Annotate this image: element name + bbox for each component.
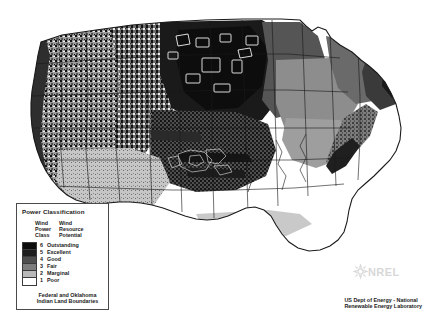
credit-text: US Dept of Energy - National Renewable E… xyxy=(344,297,422,310)
legend-swatch-class-6 xyxy=(23,243,36,250)
legend-class-row-1: 1Poor xyxy=(40,277,103,284)
legend-class-number: 3 xyxy=(40,263,47,269)
legend-class-label: Marginal xyxy=(47,270,69,276)
legend-swatch-class-1 xyxy=(23,278,36,285)
legend-header-wind-power-class: Wind Power Class xyxy=(35,220,59,239)
legend-class-rows: 6Outstanding5Excellent4Good3Fair2Margina… xyxy=(40,242,103,284)
raster-streak-panhandle-c xyxy=(150,130,202,142)
legend-swatch-class-4 xyxy=(23,257,36,264)
legend-header-wind-resource-potential: Wind Resource Potential xyxy=(59,220,84,239)
legend-class-label: Fair xyxy=(47,263,57,269)
wind-resource-figure: Power Classification Wind Power Class Wi… xyxy=(0,0,434,323)
legend-class-label: Outstanding xyxy=(47,242,79,248)
legend-class-number: 4 xyxy=(40,256,47,262)
legend-title: Power Classification xyxy=(22,208,103,215)
legend-class-label: Good xyxy=(47,256,61,262)
legend-class-number: 6 xyxy=(40,242,47,248)
legend-swatch-class-5 xyxy=(23,250,36,257)
nrel-wordmark: NREL xyxy=(368,266,400,278)
legend-class-number: 1 xyxy=(40,277,47,283)
legend-class-row-3: 3Fair xyxy=(40,263,103,270)
legend-swatch-class-2 xyxy=(23,271,36,278)
legend-class-row-2: 2Marginal xyxy=(40,270,103,277)
legend-class-row-6: 6Outstanding xyxy=(40,242,103,249)
power-classification-legend: Power Classification Wind Power Class Wi… xyxy=(16,203,109,310)
legend-class-label: Excellent xyxy=(47,249,71,255)
nrel-logo: NREL xyxy=(352,263,400,280)
legend-class-number: 5 xyxy=(40,249,47,255)
legend-swatch-column xyxy=(22,242,37,286)
legend-swatch-class-3 xyxy=(23,264,36,271)
legend-class-number: 2 xyxy=(40,270,47,276)
legend-class-row-4: 4Good xyxy=(40,256,103,263)
legend-class-row-5: 5Excellent xyxy=(40,249,103,256)
legend-class-label: Poor xyxy=(47,277,59,283)
legend-footer-note: Federal and Oklahoma Indian Land Boundar… xyxy=(22,292,103,305)
legend-column-headers: Wind Power Class Wind Resource Potential xyxy=(35,220,103,239)
legend-scale: 6Outstanding5Excellent4Good3Fair2Margina… xyxy=(22,242,103,286)
nrel-diamond-mark xyxy=(352,263,369,280)
